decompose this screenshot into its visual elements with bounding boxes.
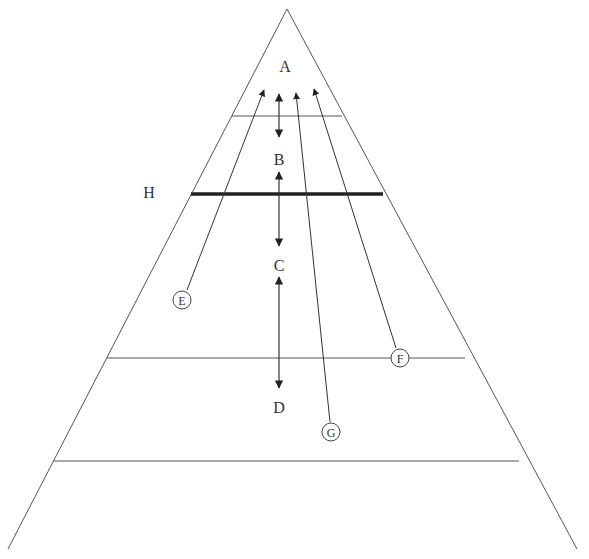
level-c-label: C xyxy=(274,257,285,274)
pathway-f-label: F xyxy=(397,352,404,366)
level-d-label: D xyxy=(273,399,285,416)
pyramid-outline xyxy=(8,9,577,549)
pathway-e-label: E xyxy=(178,294,185,308)
pathway-g-label: G xyxy=(327,426,336,440)
level-b-label: B xyxy=(274,151,285,168)
pathway-f-marker: F xyxy=(391,349,409,367)
pathway-g-arrow xyxy=(296,93,330,422)
pathway-e-marker: E xyxy=(173,291,191,309)
pyramid-diagram: E F G A B C D H xyxy=(0,0,589,559)
pathway-f-arrow xyxy=(314,89,396,348)
boundary-h-label: H xyxy=(143,184,155,201)
pathway-e-arrow xyxy=(187,90,264,290)
pyramid-svg: E F G A B C D H xyxy=(0,0,589,559)
level-a-label: A xyxy=(279,58,291,75)
pathway-g-marker: G xyxy=(322,423,340,441)
pathway-arrows xyxy=(187,89,396,422)
tier-dividers xyxy=(53,116,519,461)
